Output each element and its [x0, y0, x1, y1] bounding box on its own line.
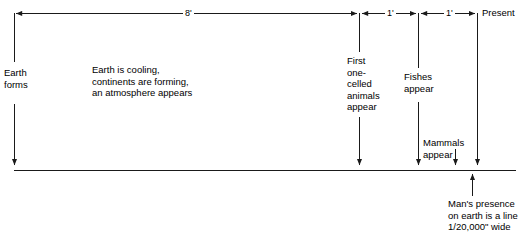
mans-presence-footnote: Man's presence on earth is a line 1/20,0… [448, 198, 518, 233]
measure-label-1ft-b: 1' [444, 9, 455, 18]
body-text: Earth is cooling, continents are forming… [92, 64, 192, 99]
first-cells-label: First one- celled animals appear [347, 55, 380, 113]
present-label: Present [482, 7, 515, 19]
measure-label-1ft-a: 1' [385, 9, 396, 18]
timeline-diagram: 8' 1' 1' Present Earth forms Earth is co… [0, 0, 529, 247]
measure-label-8ft: 8' [183, 9, 194, 18]
fishes-label: Fishes appear [404, 71, 434, 94]
mammals-label: Mammals appear [423, 137, 464, 160]
earth-forms-label: Earth forms [4, 67, 28, 90]
